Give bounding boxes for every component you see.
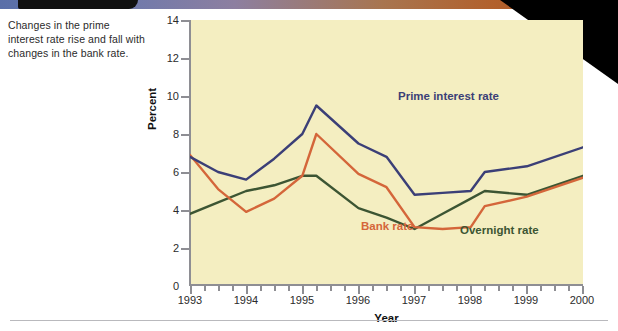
y-tick-label: 10 xyxy=(157,90,179,102)
line-chart: Percent 14 12 10 8 6 4 2 0 1993 1994 xyxy=(148,12,600,308)
series-label-overnight-rate: Overnight rate xyxy=(460,224,539,236)
y-axis-tick xyxy=(181,96,190,98)
x-axis-tick xyxy=(428,286,430,291)
x-axis-tick xyxy=(400,286,402,291)
y-tick-label: 8 xyxy=(157,128,179,140)
figure-caption: Changes in the prime interest rate rise … xyxy=(8,18,148,61)
chart-series-layer xyxy=(190,20,583,286)
y-axis-tick xyxy=(181,210,190,212)
x-tick-label: 1997 xyxy=(392,294,436,306)
x-tick-label: 1996 xyxy=(336,294,380,306)
x-axis-tick xyxy=(232,286,234,291)
y-axis-tick xyxy=(181,134,190,136)
x-axis-tick xyxy=(302,286,304,294)
x-axis-tick xyxy=(582,286,584,294)
x-tick-label: 2000 xyxy=(560,294,604,306)
y-axis-labels: 14 12 10 8 6 4 2 0 xyxy=(148,12,179,294)
x-axis-tick xyxy=(274,286,276,291)
y-axis-tick xyxy=(181,248,190,250)
decorative-black-tab xyxy=(18,0,138,9)
y-tick-label: 4 xyxy=(157,204,179,216)
y-tick-label: 2 xyxy=(157,242,179,254)
x-axis-tick xyxy=(246,286,248,294)
x-axis-tick xyxy=(442,286,444,291)
x-axis-tick xyxy=(218,286,220,291)
y-tick-label: 6 xyxy=(157,166,179,178)
series-line-bank-rate xyxy=(190,134,583,229)
y-axis-tick xyxy=(181,20,190,22)
series-label-bank-rate: Bank rate xyxy=(361,220,413,232)
x-axis-tick xyxy=(316,286,318,291)
x-axis-tick xyxy=(498,286,500,291)
x-axis-tick xyxy=(190,286,192,294)
x-axis-tick xyxy=(456,286,458,291)
x-axis-tick xyxy=(386,286,388,291)
y-tick-label: 12 xyxy=(157,52,179,64)
x-axis-tick xyxy=(358,286,360,294)
series-label-prime-interest-rate: Prime interest rate xyxy=(398,90,499,102)
x-tick-label: 1999 xyxy=(504,294,548,306)
x-tick-label: 1994 xyxy=(224,294,268,306)
x-axis-tick xyxy=(526,286,528,294)
x-axis-tick xyxy=(484,286,486,291)
x-axis-tick xyxy=(512,286,514,291)
x-axis-tick xyxy=(540,286,542,291)
x-axis-tick xyxy=(288,286,290,291)
x-axis-tick xyxy=(568,286,570,291)
y-tick-label: 0 xyxy=(157,280,179,292)
x-axis-tick xyxy=(372,286,374,291)
x-axis-tick xyxy=(414,286,416,294)
y-axis-tick xyxy=(181,58,190,60)
series-line-prime-interest-rate xyxy=(190,106,583,195)
x-axis-tick xyxy=(260,286,262,291)
x-axis-tick xyxy=(204,286,206,291)
x-tick-label: 1993 xyxy=(168,294,212,306)
x-axis-tick xyxy=(470,286,472,294)
x-axis-title: Year xyxy=(190,312,583,324)
y-tick-label: 14 xyxy=(157,14,179,26)
x-axis-tick xyxy=(344,286,346,291)
x-axis-tick xyxy=(330,286,332,291)
y-axis-tick xyxy=(181,172,190,174)
x-tick-label: 1995 xyxy=(280,294,324,306)
x-axis-tick xyxy=(554,286,556,291)
x-tick-label: 1998 xyxy=(448,294,492,306)
bottom-divider xyxy=(10,320,608,321)
